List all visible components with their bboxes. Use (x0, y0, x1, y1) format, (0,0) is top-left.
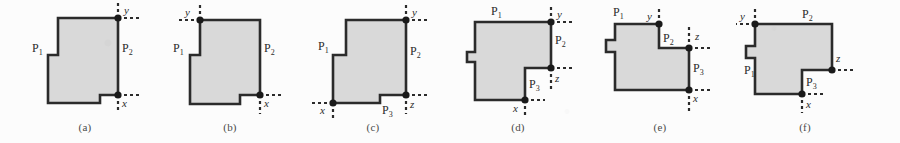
vertex-marker-y (655, 20, 662, 27)
edge-label-P1: P1 (173, 41, 184, 57)
point-label-y: y (739, 10, 745, 22)
point-label-x: x (512, 102, 518, 114)
vertex-marker-x (256, 91, 263, 98)
vertex-marker-x (521, 96, 528, 103)
vertex-marker-y (751, 20, 758, 27)
vertex-marker-z (828, 66, 835, 73)
edge-label-P2: P2 (555, 33, 566, 49)
point-label-y: y (123, 4, 129, 16)
point-label-y: y (556, 8, 562, 20)
point-label-y: y (411, 6, 417, 18)
edge-label-P3: P3 (693, 61, 704, 77)
vertex-marker-x (329, 99, 336, 106)
point-label-z: z (694, 30, 700, 42)
edge-label-P1: P1 (318, 39, 329, 55)
panel-e: y z x P1 P2 P3 (e) (585, 0, 735, 143)
panel-b: y x P1 P2 (b) (155, 0, 305, 143)
vertex-marker-x (114, 91, 121, 98)
panel-a: y x P1 P2 (a) (10, 0, 160, 143)
panel-c: y x z P1 P2 P3 (c) (298, 0, 448, 143)
panel-b-diagram: y x P1 P2 (155, 0, 305, 120)
point-label-x: x (319, 104, 325, 116)
point-label-x: x (263, 97, 269, 109)
vertex-marker-y (196, 16, 203, 23)
point-label-y: y (184, 6, 190, 18)
edge-label-P3: P3 (529, 77, 540, 93)
edge-label-P2: P2 (802, 7, 813, 23)
polygon-shape (606, 24, 689, 90)
point-label-x: x (805, 98, 811, 110)
vertex-marker-y (547, 18, 554, 25)
vertex-marker-z (402, 91, 409, 98)
panel-f: y z x P1 P2 P3 (f) (730, 0, 880, 143)
polygon-shape (746, 24, 832, 94)
panel-caption-b: (b) (155, 121, 305, 133)
point-label-x: x (692, 92, 698, 104)
edge-label-P2: P2 (122, 41, 133, 57)
panel-f-diagram: y z x P1 P2 P3 (730, 0, 880, 120)
point-label-z: z (409, 98, 415, 110)
edge-label-P1: P1 (613, 5, 624, 21)
panel-d-diagram: y z x P1 P2 P3 (443, 0, 593, 120)
panel-e-diagram: y z x P1 P2 P3 (585, 0, 735, 120)
point-label-z: z (554, 72, 560, 84)
polygon-shape (190, 20, 260, 104)
vertex-marker-z (685, 44, 692, 51)
panel-c-diagram: y x z P1 P2 P3 (298, 0, 448, 120)
figure-root: y x P1 P2 (a) y x P1 P2 (b) (0, 0, 900, 143)
point-label-x: x (121, 97, 127, 109)
panel-d: y z x P1 P2 P3 (d) (443, 0, 593, 143)
vertex-marker-z (547, 64, 554, 71)
vertex-marker-x (798, 90, 805, 97)
edge-label-P1: P1 (491, 4, 502, 20)
panel-caption-e: (e) (585, 121, 735, 133)
vertex-marker-y (402, 16, 409, 23)
vertex-marker-x (685, 86, 692, 93)
polygon-shape (48, 18, 118, 103)
edge-label-P1: P1 (744, 63, 755, 79)
edge-label-P2: P2 (264, 41, 275, 57)
point-label-z: z (835, 52, 841, 64)
edge-label-P3: P3 (806, 75, 817, 91)
panel-caption-d: (d) (443, 121, 593, 133)
panel-caption-f: (f) (730, 121, 880, 133)
edge-label-P1: P1 (32, 41, 43, 57)
edge-label-P3: P3 (382, 103, 393, 119)
panel-a-diagram: y x P1 P2 (10, 0, 160, 120)
panel-caption-c: (c) (298, 121, 448, 133)
vertex-marker-y (114, 14, 121, 21)
panel-caption-a: (a) (10, 121, 160, 133)
edge-label-P2: P2 (663, 31, 674, 47)
point-label-y: y (646, 10, 652, 22)
polygon-shape (333, 20, 406, 103)
edge-label-P2: P2 (410, 44, 421, 60)
